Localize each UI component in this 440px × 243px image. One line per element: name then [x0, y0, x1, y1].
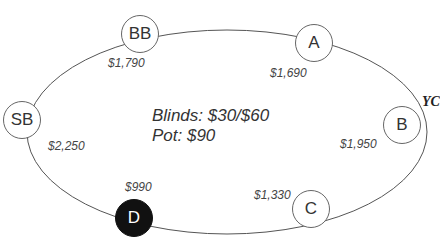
stack-c: $1,330 — [254, 188, 291, 202]
seat-label: A — [308, 33, 319, 53]
stack-d: $990 — [125, 180, 152, 194]
seat-label: D — [128, 208, 140, 228]
seat-a[interactable]: A — [295, 24, 333, 62]
stack-b: $1,950 — [340, 137, 377, 151]
seat-b[interactable]: B — [383, 106, 421, 144]
seat-c[interactable]: C — [292, 190, 330, 228]
seat-label: SB — [11, 110, 34, 130]
stack-a: $1,690 — [270, 66, 307, 80]
stack-sb: $2,250 — [48, 139, 85, 153]
side-label-cut: YC — [422, 94, 440, 110]
seat-d-dealer[interactable]: D — [115, 199, 153, 237]
seat-label: B — [396, 115, 407, 135]
seat-label: C — [305, 199, 317, 219]
pot-text: Pot: $90 — [152, 126, 215, 146]
seat-sb[interactable]: SB — [3, 101, 41, 139]
blinds-text: Blinds: $30/$60 — [152, 106, 269, 126]
stack-bb: $1,790 — [108, 56, 145, 70]
seat-bb[interactable]: BB — [121, 15, 159, 53]
seat-label: BB — [129, 24, 152, 44]
